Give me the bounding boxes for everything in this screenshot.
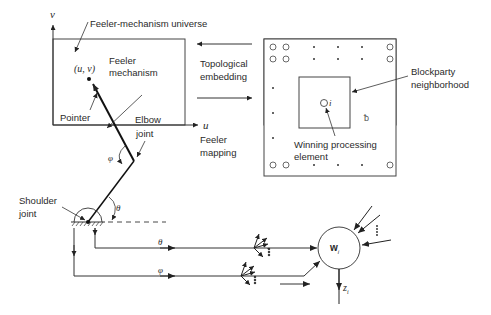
shoulder-label-line1: Shoulder — [19, 195, 57, 207]
diagram-canvas: ᵬ — [0, 0, 491, 315]
feeler-mechanism-label-line2: mechanism — [109, 67, 158, 79]
pointer-leader — [90, 93, 97, 110]
pointer-label: Pointer — [60, 112, 90, 124]
feeler-forearm — [93, 84, 134, 161]
universe-leader-line — [75, 22, 88, 52]
u-axis-label: u — [203, 119, 209, 131]
elbow-leader — [137, 141, 145, 157]
weight-subscript: i — [338, 249, 339, 255]
blockparty-label-line2: neighborhood — [411, 79, 469, 91]
shoulder-leader — [62, 207, 85, 220]
v-axis-label: v — [50, 8, 55, 20]
input-arrow-1 — [354, 206, 372, 230]
elbow-label-line1: Elbow — [135, 114, 161, 126]
theta-fanout — [254, 234, 270, 257]
weight-symbol: w — [330, 242, 338, 253]
universe-label: Feeler-mechanism universe — [90, 18, 207, 30]
feeler-upper-arm — [88, 161, 134, 222]
theta-arc — [109, 197, 115, 220]
winning-pe-label-line2: element — [294, 151, 328, 163]
phi-line-label: φ — [158, 264, 163, 276]
stray-mark: ᵬ — [363, 113, 369, 123]
feeler-mechanism-label-line1: Feeler — [109, 55, 136, 67]
theta-line-label: θ — [158, 236, 162, 248]
input-arrow-2 — [358, 215, 380, 233]
winning-pe-label-line1: Winning processing — [294, 139, 377, 151]
weight-label: wi — [330, 242, 339, 258]
theta-signal-line — [95, 228, 250, 248]
phi-angle-label: φ — [108, 152, 113, 164]
elbow-label-line2: joint — [136, 128, 153, 140]
output-subscript: i — [347, 289, 349, 295]
theta-angle-label: θ — [116, 202, 120, 214]
pe-index-label: i — [329, 97, 332, 109]
target-point — [87, 77, 91, 81]
topological-label-line1: Topological — [200, 58, 248, 70]
input-arrow-3 — [362, 240, 391, 245]
shoulder-label-line2: joint — [19, 208, 36, 220]
phi-arc — [119, 146, 125, 164]
feeler-mapping-label-line1: Feeler — [200, 134, 227, 146]
input-ellipsis — [376, 225, 378, 236]
point-label: (u, v) — [74, 63, 95, 75]
phi-fanout — [241, 262, 256, 285]
phi-input-arrow — [241, 261, 320, 276]
shoulder-joint — [71, 208, 105, 226]
feeler-mapping-label-line2: mapping — [200, 147, 236, 159]
blockparty-label-line1: Blockparty — [411, 66, 455, 78]
topological-label-line2: embedding — [200, 71, 247, 83]
output-label: zi — [343, 282, 349, 298]
